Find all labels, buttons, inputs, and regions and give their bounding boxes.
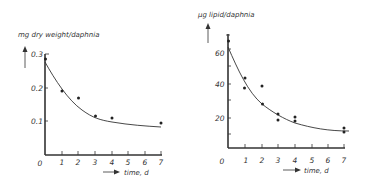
svg-text:6: 6 [143, 158, 148, 167]
svg-text:0.3: 0.3 [31, 50, 43, 59]
right-y-tick-labels: 60 40 20 [215, 49, 225, 123]
svg-text:2: 2 [76, 158, 81, 167]
svg-text:3: 3 [93, 158, 98, 167]
right-chart: µg lipid/daphnia 60 40 20 [197, 11, 349, 175]
svg-text:60: 60 [215, 49, 225, 58]
svg-text:0.2: 0.2 [31, 84, 43, 93]
svg-text:20: 20 [215, 114, 225, 123]
right-x-axis-label: time, d [304, 167, 329, 175]
right-y-arrow-icon [206, 23, 211, 43]
svg-text:5: 5 [310, 156, 315, 165]
svg-text:1: 1 [60, 158, 65, 167]
svg-text:1: 1 [244, 156, 249, 165]
left-y-tick-labels: 0.3 0.2 0.1 [31, 50, 43, 126]
left-x-axis-label: time, d [124, 169, 149, 177]
svg-text:4: 4 [293, 156, 298, 165]
left-fitted-curve [45, 62, 161, 127]
right-x-arrow-icon [283, 168, 301, 173]
left-y-axis-label: mg dry weight/daphnia [18, 31, 99, 39]
svg-text:0: 0 [220, 157, 225, 166]
right-x-tick-labels: 0 1 2 3 4 5 6 7 [220, 156, 347, 166]
svg-text:7: 7 [159, 158, 164, 167]
svg-text:0.1: 0.1 [31, 117, 43, 126]
svg-text:3: 3 [276, 156, 281, 165]
left-x-tick-labels: 0 1 2 3 4 5 6 7 [38, 158, 164, 168]
left-x-arrow-icon [103, 170, 120, 175]
svg-text:5: 5 [126, 158, 131, 167]
right-fitted-curve [228, 47, 349, 131]
left-y-arrow-icon [23, 46, 28, 68]
left-chart: mg dry weight/daphnia 0.3 0.2 0.1 [18, 31, 164, 177]
svg-text:7: 7 [342, 156, 347, 165]
figure: mg dry weight/daphnia 0.3 0.2 0.1 [0, 0, 365, 189]
svg-text:2: 2 [260, 156, 265, 165]
svg-text:4: 4 [110, 158, 115, 167]
svg-text:40: 40 [215, 80, 225, 89]
svg-text:6: 6 [326, 156, 331, 165]
svg-text:0: 0 [38, 159, 43, 168]
right-y-axis-label: µg lipid/daphnia [197, 11, 255, 19]
left-data-points [44, 58, 163, 125]
